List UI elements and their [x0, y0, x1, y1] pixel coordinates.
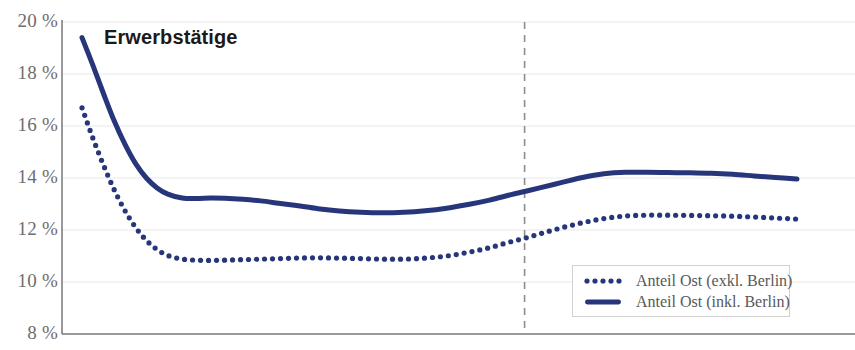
legend-item-exkl-berlin[interactable]: Anteil Ost (exkl. Berlin) [583, 270, 781, 291]
legend-label-inkl-berlin: Anteil Ost (inkl. Berlin) [636, 293, 790, 311]
y-axis-tick-label: 14 % [4, 166, 58, 188]
y-axis-tick-label: 12 % [4, 218, 58, 240]
y-axis-tick-labels: 20 %18 %16 %14 %12 %10 %8 % [0, 0, 58, 350]
legend-item-inkl-berlin[interactable]: Anteil Ost (inkl. Berlin) [583, 291, 781, 312]
y-axis-tick-label: 8 % [4, 322, 58, 344]
legend-label-exkl-berlin: Anteil Ost (exkl. Berlin) [636, 272, 792, 290]
y-axis-tick-label: 20 % [4, 10, 58, 32]
chart-legend: Anteil Ost (exkl. Berlin) Anteil Ost (in… [572, 265, 790, 317]
legend-swatch-dotted-icon [583, 275, 628, 287]
chart-title: Erwerbstätige [104, 26, 238, 49]
y-axis-tick-label: 16 % [4, 114, 58, 136]
legend-swatch-solid-icon [583, 296, 628, 308]
y-axis-tick-label: 18 % [4, 62, 58, 84]
y-axis-tick-label: 10 % [4, 270, 58, 292]
chart-container: 20 %18 %16 %14 %12 %10 %8 % Erwerbstätig… [0, 0, 855, 350]
